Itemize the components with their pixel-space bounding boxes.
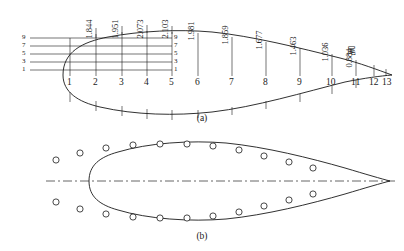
plan-marker bbox=[130, 142, 136, 148]
plan-marker bbox=[286, 197, 292, 203]
hull-lines-figure: 1.844 1.951 2.073 2.103 1.981 1.859 1.67… bbox=[0, 0, 404, 251]
plan-marker bbox=[77, 150, 83, 156]
plan-marker bbox=[157, 215, 163, 221]
plan-marker bbox=[236, 147, 242, 153]
plan-marker bbox=[53, 157, 59, 163]
plan-marker bbox=[286, 159, 292, 165]
plan-marker bbox=[310, 191, 316, 197]
plan-upper-markers bbox=[53, 141, 316, 171]
plan-view-drawing bbox=[0, 0, 404, 251]
plan-marker bbox=[261, 153, 267, 159]
plan-marker bbox=[103, 145, 109, 151]
plan-marker bbox=[77, 206, 83, 212]
plan-marker bbox=[210, 143, 216, 149]
plan-marker bbox=[103, 211, 109, 217]
panel-caption-b: (b) bbox=[0, 232, 404, 242]
plan-marker bbox=[261, 203, 267, 209]
plan-marker bbox=[210, 213, 216, 219]
plan-marker bbox=[236, 209, 242, 215]
plan-lower-markers bbox=[53, 191, 316, 221]
plan-marker bbox=[184, 215, 190, 221]
plan-marker bbox=[53, 199, 59, 205]
plan-marker bbox=[184, 141, 190, 147]
plan-marker bbox=[157, 141, 163, 147]
plan-marker bbox=[310, 165, 316, 171]
plan-marker bbox=[130, 214, 136, 220]
